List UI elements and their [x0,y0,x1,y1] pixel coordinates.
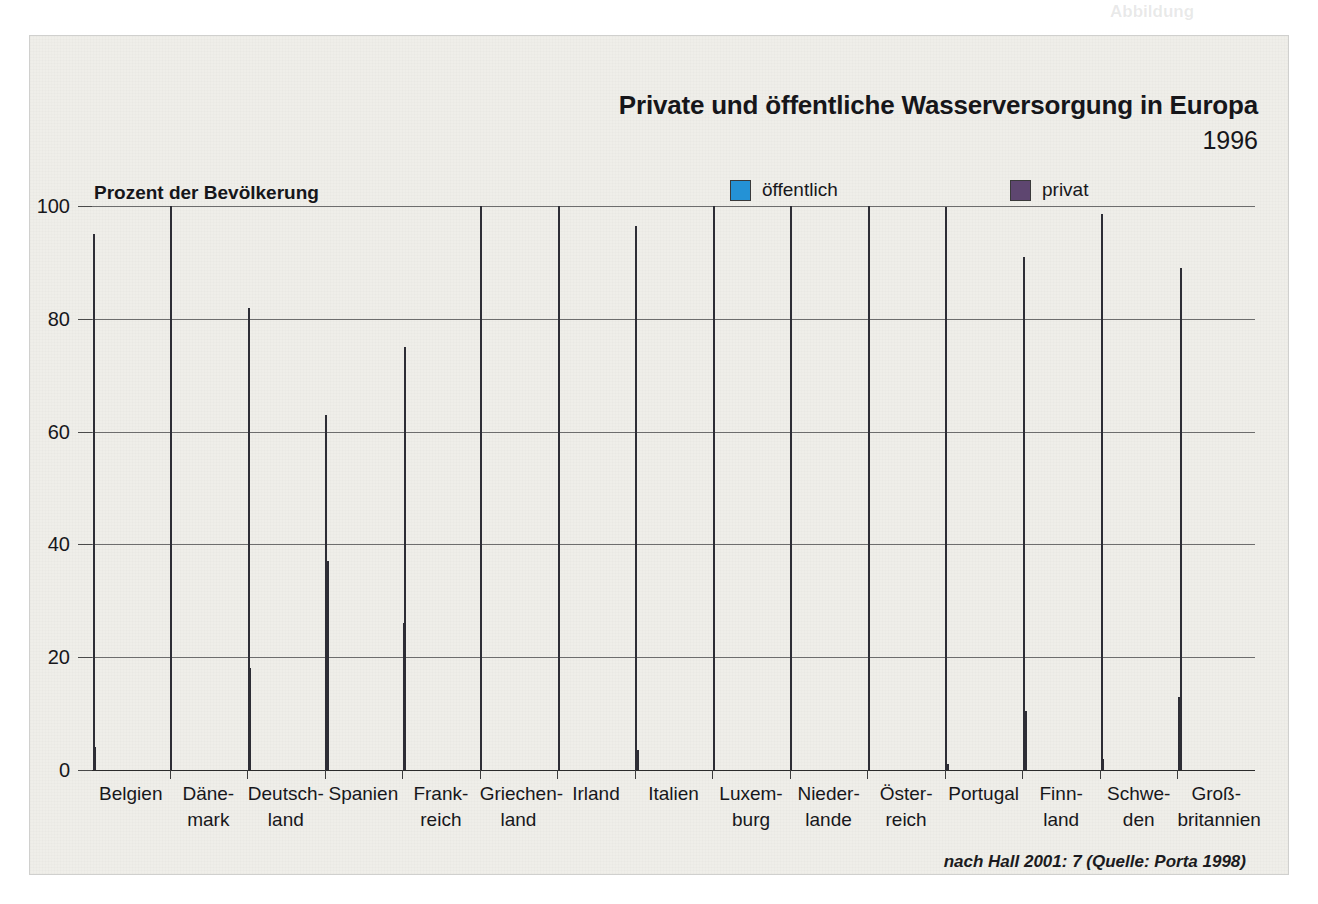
bar-group [325,206,403,770]
x-tick [402,770,403,779]
x-axis-label-line1: Nieder- [797,783,859,804]
x-axis-label-line1: Belgien [99,783,162,804]
x-axis-label-line2: land [1022,807,1100,833]
x-axis-label-line2: lande [790,807,868,833]
bar-group [867,206,945,770]
bar-public [93,234,95,770]
bar-group [170,206,248,770]
bar-group [1177,206,1255,770]
x-axis-label: Luxem-burg [712,781,790,833]
bar-public [713,206,715,770]
bar-public [790,206,792,770]
bar-private [404,347,406,770]
y-tick-label-100: 100 [37,195,70,218]
x-axis-labels: BelgienDäne-markDeutsch-landSpanienFrank… [92,781,1255,853]
bar-group [247,206,325,770]
x-axis-label-line2: mark [170,807,248,833]
x-axis-label-line2: land [480,807,558,833]
legend-item-private: privat [1010,179,1088,201]
x-axis-label-line2: reich [402,807,480,833]
x-axis-label: Italien [635,781,713,807]
chart-panel: Private und öffentliche Wasserversorgung… [30,36,1288,874]
bar-private [947,764,949,770]
y-tick-60 [78,432,92,433]
x-axis-label: Belgien [92,781,170,807]
plot-area: 020406080100 [92,206,1255,770]
x-tick [945,770,946,779]
x-axis-label-line2: reich [867,807,945,833]
gridline-0 [92,770,1255,771]
y-tick-label-40: 40 [48,533,70,556]
y-tick-40 [78,544,92,545]
bar-group [1022,206,1100,770]
x-axis-label: Spanien [325,781,403,807]
bar-private [249,668,251,770]
bar-public [945,207,947,770]
chart-year: 1996 [1202,126,1258,155]
x-axis-label-line1: Portugal [948,783,1019,804]
x-axis-label-line2: burg [712,807,790,833]
bar-public [1101,214,1103,770]
bar-group [480,206,558,770]
legend-label-public: öffentlich [762,179,838,201]
bar-group [557,206,635,770]
x-axis-label: Griechen-land [480,781,558,833]
y-tick-100 [78,206,92,207]
bar-private [327,561,329,770]
bar-group [92,206,170,770]
x-axis-label: Portugal [945,781,1023,807]
x-axis-label-line1: Irland [572,783,620,804]
x-axis-label-line1: Griechen- [480,783,563,804]
x-axis-label-line2: britannien [1177,807,1255,833]
x-axis-label: Finn-land [1022,781,1100,833]
bar-group [402,206,480,770]
y-tick-0 [78,770,92,771]
x-tick [635,770,636,779]
bar-public [170,206,172,770]
bar-series-container [92,206,1255,770]
x-axis-label-line1: Spanien [328,783,398,804]
x-tick [247,770,248,779]
x-axis-label: Frank-reich [402,781,480,833]
x-tick [480,770,481,779]
bar-public [1023,257,1025,770]
x-tick [1100,770,1101,779]
x-tick [867,770,868,779]
x-tick [557,770,558,779]
bar-group [945,206,1023,770]
y-tick-label-0: 0 [59,759,70,782]
y-tick-label-20: 20 [48,646,70,669]
x-axis-label-line1: Groß- [1191,783,1241,804]
x-tick [1177,770,1178,779]
public-swatch-icon [730,180,751,201]
bar-group [1100,206,1178,770]
bar-private [637,750,639,770]
chart-title: Private und öffentliche Wasserversorgung… [619,90,1258,121]
x-axis-label-line1: Schwe- [1107,783,1170,804]
private-swatch-icon [1010,180,1031,201]
x-axis-label: Deutsch-land [247,781,325,833]
x-axis-label: Schwe-den [1100,781,1178,833]
y-tick-label-60: 60 [48,420,70,443]
bar-private [1025,711,1027,770]
bar-public [868,206,870,770]
y-tick-label-80: 80 [48,307,70,330]
bleedthrough-top-right: Abbildung [1110,2,1194,22]
chart-legend: öffentlich privat [730,179,1230,205]
bar-group [790,206,868,770]
y-tick-20 [78,657,92,658]
x-axis-label-line1: Finn- [1040,783,1083,804]
x-tick [325,770,326,779]
x-axis-label-line1: Deutsch- [248,783,324,804]
bar-public [635,226,637,770]
x-axis-label-line1: Luxem- [719,783,782,804]
source-note: nach Hall 2001: 7 (Quelle: Porta 1998) [944,852,1246,872]
x-axis-label: Groß-britannien [1177,781,1255,833]
bar-private [1180,268,1182,770]
y-tick-80 [78,319,92,320]
bar-private [1102,759,1104,770]
legend-label-private: privat [1042,179,1088,201]
x-axis-label: Irland [557,781,635,807]
x-axis-label-line1: Öster- [880,783,933,804]
bar-private [94,747,96,770]
